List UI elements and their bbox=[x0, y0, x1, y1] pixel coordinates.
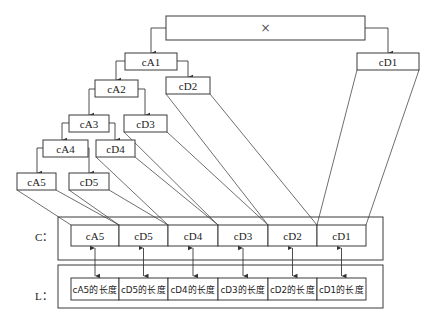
node-cD5: cD5 bbox=[69, 173, 109, 190]
node-cA5: cA5 bbox=[17, 173, 56, 190]
svg-text:cD2: cD2 bbox=[283, 230, 301, 242]
svg-text:cA5的长度: cA5的长度 bbox=[73, 284, 118, 295]
c-vector: C： cA5 cD5 cD4 cD3 cD2 cD1 bbox=[35, 217, 383, 260]
svg-text:cD1: cD1 bbox=[379, 56, 397, 68]
correspondence-arrows bbox=[95, 248, 342, 276]
svg-text:cD5: cD5 bbox=[80, 176, 99, 188]
svg-text:cA2: cA2 bbox=[107, 83, 125, 95]
svg-text:cD1的长度: cD1的长度 bbox=[319, 284, 364, 295]
svg-text:cD3的长度: cD3的长度 bbox=[221, 284, 266, 295]
node-cA1: cA1 bbox=[125, 53, 177, 70]
root-label: × bbox=[260, 21, 270, 35]
wavedec-structure-diagram: × cA1 cD1 cA2 cD2 cA3 cD3 cA4 cD4 cA5 cD… bbox=[0, 0, 434, 322]
svg-text:cD4: cD4 bbox=[184, 230, 203, 242]
svg-text:cD5的长度: cD5的长度 bbox=[121, 284, 166, 295]
c-vector-label: C： bbox=[35, 231, 53, 243]
node-cA3: cA3 bbox=[69, 115, 109, 132]
svg-text:cD4的长度: cD4的长度 bbox=[171, 284, 216, 295]
svg-text:cA4: cA4 bbox=[56, 143, 75, 155]
svg-text:cD3: cD3 bbox=[234, 230, 253, 242]
l-vector: L： cA5的长度 cD5的长度 cD4的长度 cD3的长度 cD2的长度 cD… bbox=[35, 265, 383, 308]
svg-text:cA5: cA5 bbox=[86, 230, 105, 242]
l-vector-label: L： bbox=[35, 290, 53, 302]
svg-text:cA1: cA1 bbox=[142, 56, 160, 68]
svg-text:cD2: cD2 bbox=[179, 80, 197, 92]
root-signal-box: × bbox=[166, 16, 365, 40]
node-cA2: cA2 bbox=[95, 80, 138, 97]
svg-text:cD1: cD1 bbox=[332, 230, 350, 242]
svg-text:cD5: cD5 bbox=[134, 230, 153, 242]
svg-text:cD2的长度: cD2的长度 bbox=[270, 284, 315, 295]
node-cD2: cD2 bbox=[166, 77, 210, 94]
svg-text:cA5: cA5 bbox=[27, 176, 46, 188]
node-cD4: cD4 bbox=[96, 140, 135, 157]
tree-connectors bbox=[37, 28, 388, 173]
svg-text:cA3: cA3 bbox=[80, 118, 99, 130]
svg-text:cD4: cD4 bbox=[106, 143, 125, 155]
node-cA4: cA4 bbox=[43, 140, 88, 157]
node-cD1: cD1 bbox=[357, 53, 419, 70]
node-cD3: cD3 bbox=[124, 115, 167, 132]
svg-text:cD3: cD3 bbox=[136, 118, 155, 130]
